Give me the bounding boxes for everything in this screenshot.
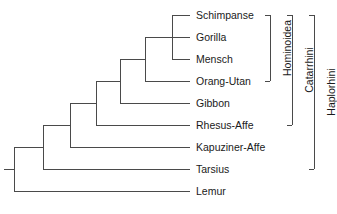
clade-label-catarrhini: Catarrhini <box>304 47 315 93</box>
taxon-label-orang-utan: Orang-Utan <box>196 76 251 87</box>
taxon-label-rhesus-affe: Rhesus-Affe <box>196 120 254 131</box>
taxon-label-gibbon: Gibbon <box>196 98 230 109</box>
clade-label-haplorhini: Haplorhini <box>326 68 337 115</box>
taxon-label-schimpanse: Schimpanse <box>196 10 254 21</box>
taxon-label-kapuziner-affe: Kapuziner-Affe <box>196 142 265 153</box>
taxon-label-mensch: Mensch <box>196 54 233 65</box>
taxon-label-gorilla: Gorilla <box>196 32 226 43</box>
clade-label-hominoidea: Hominoidea <box>282 20 293 76</box>
taxon-label-tarsius: Tarsius <box>196 164 229 175</box>
taxon-label-lemur: Lemur <box>196 186 226 197</box>
